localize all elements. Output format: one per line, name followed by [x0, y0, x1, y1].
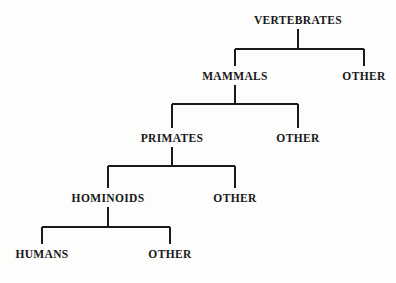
node-label-mammals: MAMMALS [202, 70, 268, 83]
node-label-other3: OTHER [213, 192, 256, 205]
node-label-hominoids: HOMINOIDS [72, 192, 145, 205]
node-label-vertebrates: VERTEBRATES [254, 14, 342, 27]
node-label-other4: OTHER [148, 248, 191, 261]
node-label-primates: PRIMATES [141, 132, 204, 145]
node-label-other2: OTHER [276, 132, 319, 145]
taxonomy-tree-diagram: VERTEBRATESMAMMALSOTHERPRIMATESOTHERHOMI… [0, 0, 396, 283]
node-label-other1: OTHER [342, 70, 385, 83]
node-label-humans: HUMANS [15, 248, 68, 261]
